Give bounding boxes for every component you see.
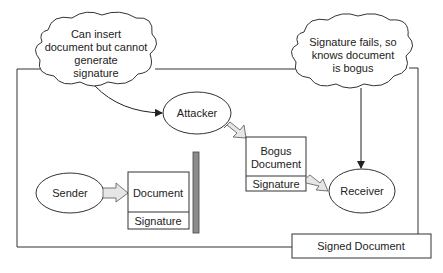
sender-node: Sender xyxy=(36,173,104,213)
document: Document Signature xyxy=(128,172,189,229)
signed-document-frame xyxy=(17,68,418,247)
block-arrow-attacker-to-bogus xyxy=(224,122,246,138)
svg-text:is bogus: is bogus xyxy=(333,62,374,74)
bogus-document: Bogus Document Signature xyxy=(246,137,306,191)
receiver-node: Receiver xyxy=(329,169,395,213)
cloud-line: is bogus xyxy=(333,62,374,74)
signed-document-box: Signed Document xyxy=(292,234,431,258)
block-arrow-bogus-to-receiver xyxy=(306,175,328,191)
bogus-doc-line: Bogus xyxy=(260,145,292,157)
cloud-attacker-note: Can insert document but cannot generate … xyxy=(35,12,156,86)
svg-text:signature: signature xyxy=(73,67,118,79)
barrier-bar xyxy=(193,152,199,233)
svg-text:document but cannot: document but cannot xyxy=(45,41,148,53)
cloud-receiver-note: Signature fails, so knows document is bo… xyxy=(291,14,412,88)
receiver-label: Receiver xyxy=(340,185,384,197)
cloud-line: Can insert xyxy=(71,28,121,40)
attacker-node: Attacker xyxy=(163,92,231,134)
cloud-line: generate xyxy=(74,54,117,66)
cloud-line: Signature fails, so xyxy=(309,36,396,48)
cloud-line: signature xyxy=(73,67,118,79)
svg-text:generate: generate xyxy=(74,54,117,66)
cloud-line: knows document xyxy=(312,49,395,61)
arrow-note-to-attacker xyxy=(95,86,162,113)
bogus-doc-line: Document xyxy=(251,158,301,170)
svg-text:Can insert: Can insert xyxy=(71,28,121,40)
signed-document-label: Signed Document xyxy=(317,240,404,252)
diagram-canvas: Can insert document but cannot generate … xyxy=(0,0,443,273)
block-arrow-sender-to-document xyxy=(103,183,128,202)
bogus-signature-label: Signature xyxy=(252,178,299,190)
attacker-label: Attacker xyxy=(177,107,218,119)
sender-label: Sender xyxy=(52,187,88,199)
document-label: Document xyxy=(133,187,183,199)
svg-text:Signature fails, so: Signature fails, so xyxy=(309,36,396,48)
document-signature-label: Signature xyxy=(134,215,181,227)
svg-text:knows document: knows document xyxy=(312,49,395,61)
cloud-line: document but cannot xyxy=(45,41,148,53)
